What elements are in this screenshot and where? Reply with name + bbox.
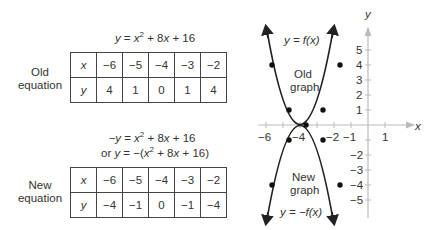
data-point	[337, 182, 342, 187]
new-curve-arrow-right	[332, 212, 334, 223]
new-graph-label: New	[292, 171, 316, 183]
old-curve-arrow-left	[266, 27, 268, 38]
y-tick-label: 4	[356, 59, 363, 71]
data-point	[269, 182, 274, 187]
x-axis	[258, 122, 414, 128]
y-tick-label: 2	[356, 89, 362, 101]
y-tick-label: −5	[350, 194, 363, 206]
y-tick-label: −4	[350, 179, 364, 191]
old-curve-label: y = f(x)	[283, 34, 320, 46]
coordinate-graph: x y −6 −4 −2 −1 1 5 4 3 2 1 −2 −3 −4 −5 …	[0, 0, 439, 230]
y-axis	[365, 28, 371, 218]
new-curve-label: y = −f(x)	[279, 206, 322, 218]
data-point	[303, 122, 308, 127]
y-tick-label: 5	[356, 44, 362, 56]
y-axis-label: y	[364, 8, 372, 20]
data-point	[286, 137, 291, 142]
data-point	[320, 107, 325, 112]
data-point	[320, 137, 325, 142]
data-point	[269, 62, 274, 67]
data-point	[286, 107, 291, 112]
x-tick-label: −2	[326, 131, 339, 143]
y-tick-label: −3	[350, 164, 363, 176]
x-axis-label: x	[414, 120, 422, 132]
x-tick-label: 1	[382, 131, 388, 143]
old-graph-label: Old	[294, 68, 312, 80]
y-tick-label: 1	[356, 104, 362, 116]
x-tick-label: −1	[343, 131, 356, 143]
old-curve-arrow-right	[332, 27, 334, 38]
new-curve-arrow-left	[266, 212, 268, 223]
old-graph-label: graph	[290, 81, 319, 93]
y-tick-label: −2	[350, 149, 363, 161]
x-tick-label: −4	[292, 131, 306, 143]
y-tick-label: 3	[356, 74, 362, 86]
new-graph-label: graph	[290, 184, 319, 196]
data-point	[337, 62, 342, 67]
x-tick-label: −6	[258, 131, 271, 143]
